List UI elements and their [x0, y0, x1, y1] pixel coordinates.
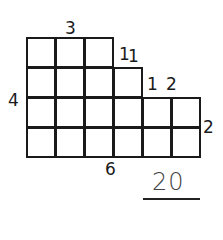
label-top: 3: [65, 20, 76, 37]
unit-square: [113, 97, 143, 128]
label-right: 2: [203, 119, 214, 136]
unit-square: [26, 67, 56, 98]
unit-square: [55, 127, 85, 158]
unit-square: [142, 97, 172, 128]
unit-square: [84, 97, 114, 128]
unit-square: [84, 127, 114, 158]
unit-square: [55, 67, 85, 98]
unit-square: [171, 97, 201, 128]
label-step2-horizontal: 2: [166, 76, 177, 93]
answer-value: 20: [152, 170, 185, 194]
label-left: 4: [8, 92, 19, 109]
unit-square: [55, 37, 85, 68]
unit-square: [171, 127, 201, 158]
answer-underline: [143, 198, 200, 200]
unit-square: [113, 127, 143, 158]
unit-square: [26, 37, 56, 68]
label-bottom: 6: [105, 161, 116, 178]
unit-square: [142, 127, 172, 158]
unit-square: [84, 67, 114, 98]
unit-square: [26, 97, 56, 128]
unit-square: [55, 97, 85, 128]
unit-square: [84, 37, 114, 68]
label-step2-vertical: 1: [147, 76, 158, 93]
label-step1-horizontal: 1: [128, 48, 139, 65]
unit-square: [113, 67, 143, 98]
unit-square: [26, 127, 56, 158]
